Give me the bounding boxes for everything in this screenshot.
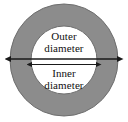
annulus-diagram: Outer diameter Inner diameter — [0, 0, 128, 122]
inner-circle-shape — [31, 26, 97, 94]
annulus-graphic — [0, 0, 128, 122]
